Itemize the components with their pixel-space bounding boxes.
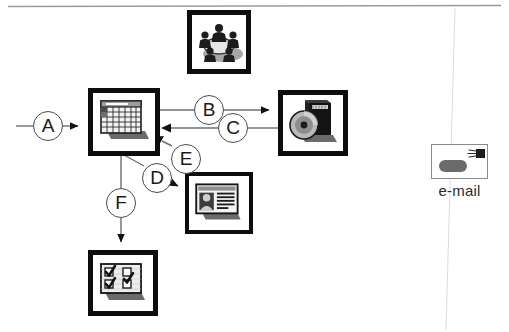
email-pill-icon: [432, 145, 489, 180]
edge-line-d: [124, 155, 144, 166]
spreadsheet-calendar-icon: [93, 93, 155, 151]
node-database[interactable]: [278, 90, 348, 156]
edge-label-c[interactable]: C: [218, 113, 248, 143]
node-spreadsheet[interactable]: [88, 88, 160, 156]
edge-label-a[interactable]: A: [33, 111, 63, 141]
edge-label-b-text: B: [203, 99, 216, 120]
email-widget[interactable]: e-mail: [431, 144, 488, 199]
email-frame[interactable]: [431, 144, 488, 179]
top-rule: [8, 6, 501, 7]
edge-label-c-text: C: [226, 117, 240, 138]
diagram-canvas: A B C D E F e-mail: [0, 0, 509, 332]
edge-label-e[interactable]: E: [171, 144, 201, 174]
email-caption: e-mail: [431, 182, 488, 199]
edge-arrow-c: [161, 124, 171, 133]
node-meeting[interactable]: [187, 10, 251, 74]
node-checklist[interactable]: [88, 250, 158, 316]
edge-label-d-text: D: [150, 167, 164, 188]
edge-label-d[interactable]: D: [142, 163, 172, 193]
disc-storage-icon: [283, 95, 343, 151]
edge-label-f-text: F: [115, 192, 127, 213]
node-document[interactable]: [185, 172, 253, 234]
edge-label-e-text: E: [180, 148, 193, 169]
checklist-icon: [93, 255, 153, 311]
people-meeting-icon: [192, 15, 246, 69]
edge-label-f[interactable]: F: [106, 188, 136, 218]
edge-label-a-text: A: [42, 115, 55, 136]
article-document-icon: [189, 176, 249, 230]
edge-line-e2: [162, 141, 172, 146]
